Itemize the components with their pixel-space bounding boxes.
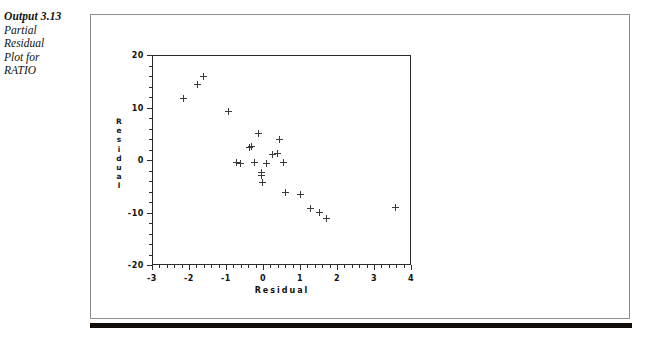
y-tick-label: -20 <box>118 261 144 270</box>
y-tick-label: 20 <box>118 51 144 60</box>
x-tick-minor <box>404 265 405 268</box>
x-tick-minor <box>248 265 249 268</box>
x-axis-title: Residual <box>222 286 342 295</box>
data-point <box>180 95 187 102</box>
x-tick-minor <box>241 265 242 268</box>
x-tick-minor <box>167 265 168 268</box>
y-axis-title-char: u <box>113 163 125 172</box>
data-point <box>259 179 266 186</box>
x-tick-minor <box>159 265 160 268</box>
x-tick-label: 4 <box>401 274 421 283</box>
x-tick-minor <box>233 265 234 268</box>
y-axis-title-char: d <box>113 154 125 163</box>
data-point <box>274 150 281 157</box>
y-axis-title-char: R <box>113 117 125 126</box>
x-tick-major <box>189 265 190 270</box>
y-tick-minor <box>149 118 152 119</box>
data-point <box>280 159 287 166</box>
x-tick-minor <box>256 265 257 268</box>
x-tick-minor <box>270 265 271 268</box>
x-tick-minor <box>381 265 382 268</box>
y-tick-minor <box>149 76 152 77</box>
y-tick-minor <box>149 181 152 182</box>
y-axis-title-char: s <box>113 135 125 144</box>
x-tick-major <box>337 265 338 270</box>
x-tick-minor <box>196 265 197 268</box>
y-axis-title-char: i <box>113 145 125 154</box>
x-tick-minor <box>211 265 212 268</box>
x-tick-minor <box>278 265 279 268</box>
x-tick-major <box>374 265 375 270</box>
y-tick-minor <box>149 97 152 98</box>
scatter-plot: -20-1001020 -3-2-101234 Residual Residua… <box>0 0 650 341</box>
data-point <box>248 143 255 150</box>
y-tick-minor <box>149 150 152 151</box>
y-tick-minor <box>149 244 152 245</box>
data-point <box>276 136 283 143</box>
data-point <box>392 204 399 211</box>
y-tick-minor <box>149 66 152 67</box>
y-tick-label: -10 <box>118 209 144 218</box>
y-tick-major <box>147 108 152 109</box>
x-tick-major <box>300 265 301 270</box>
x-tick-label: 2 <box>327 274 347 283</box>
x-tick-minor <box>396 265 397 268</box>
y-tick-minor <box>149 87 152 88</box>
y-tick-minor <box>149 192 152 193</box>
x-tick-minor <box>182 265 183 268</box>
data-point <box>194 81 201 88</box>
x-tick-minor <box>367 265 368 268</box>
y-axis-title-char: a <box>113 172 125 181</box>
y-axis-title-char: e <box>113 126 125 135</box>
data-point <box>297 191 304 198</box>
data-point <box>316 209 323 216</box>
data-point <box>251 159 258 166</box>
x-tick-label: 0 <box>253 274 273 283</box>
y-tick-minor <box>149 171 152 172</box>
y-tick-minor <box>149 255 152 256</box>
x-tick-minor <box>389 265 390 268</box>
y-axis-title-char: l <box>113 181 125 190</box>
y-tick-minor <box>149 129 152 130</box>
data-point <box>237 160 244 167</box>
y-tick-minor <box>149 223 152 224</box>
x-tick-minor <box>344 265 345 268</box>
x-tick-minor <box>330 265 331 268</box>
data-point <box>323 215 330 222</box>
x-tick-minor <box>174 265 175 268</box>
x-tick-major <box>152 265 153 270</box>
x-tick-minor <box>359 265 360 268</box>
y-tick-major <box>147 55 152 56</box>
y-tick-minor <box>149 202 152 203</box>
y-tick-minor <box>149 234 152 235</box>
x-tick-minor <box>352 265 353 268</box>
data-point <box>307 205 314 212</box>
x-tick-label: -2 <box>179 274 199 283</box>
x-tick-minor <box>285 265 286 268</box>
x-tick-minor <box>315 265 316 268</box>
x-tick-minor <box>322 265 323 268</box>
data-point <box>200 73 207 80</box>
x-tick-minor <box>204 265 205 268</box>
x-tick-label: -1 <box>216 274 236 283</box>
x-tick-major <box>411 265 412 270</box>
y-tick-major <box>147 213 152 214</box>
y-axis-title: Residual <box>113 117 125 191</box>
x-tick-label: 3 <box>364 274 384 283</box>
y-tick-major <box>147 160 152 161</box>
x-tick-minor <box>219 265 220 268</box>
y-tick-minor <box>149 139 152 140</box>
x-tick-label: 1 <box>290 274 310 283</box>
x-tick-major <box>226 265 227 270</box>
x-tick-major <box>263 265 264 270</box>
data-point <box>263 160 270 167</box>
data-point <box>225 108 232 115</box>
y-tick-label: 10 <box>118 104 144 113</box>
data-point <box>282 189 289 196</box>
x-tick-minor <box>307 265 308 268</box>
data-point <box>255 130 262 137</box>
x-tick-minor <box>293 265 294 268</box>
x-tick-label: -3 <box>142 274 162 283</box>
